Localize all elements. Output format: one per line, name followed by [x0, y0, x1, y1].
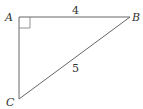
vertex-label-b: B: [131, 11, 140, 24]
right-angle-marker: [19, 17, 30, 28]
triangle-abc: [19, 17, 130, 99]
side-bc-length: 5: [72, 62, 79, 75]
triangle-diagram: A B C 4 5: [0, 0, 143, 109]
vertex-label-a: A: [4, 11, 13, 24]
vertex-label-c: C: [6, 96, 15, 109]
side-ab-length: 4: [72, 4, 79, 17]
